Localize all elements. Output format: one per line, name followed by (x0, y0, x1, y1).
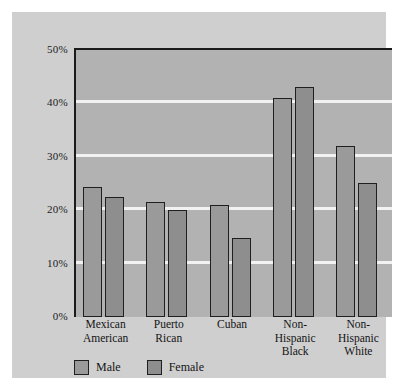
x-tick-label-line: Black (264, 345, 327, 359)
bar-female-3 (295, 87, 314, 317)
x-tick-label-line: American (74, 332, 137, 346)
bar-male-4 (336, 146, 355, 317)
bar-female-4 (358, 183, 377, 317)
bar-male-0 (83, 187, 102, 317)
y-tick-label: 40% (24, 96, 68, 108)
bar-female-1 (168, 210, 187, 317)
y-tick-label: 0% (24, 310, 68, 322)
plot-area (74, 48, 392, 317)
bar-male-1 (146, 202, 165, 317)
bar-male-2 (210, 205, 229, 317)
y-tick-label: 50% (24, 43, 68, 55)
bar-male-3 (273, 98, 292, 317)
x-tick-label: MexicanAmerican (74, 318, 137, 345)
x-tick-label: Non-HispanicWhite (327, 318, 390, 359)
y-tick-label: 30% (24, 150, 68, 162)
legend-swatch-icon (147, 360, 162, 375)
legend-item-male[interactable]: Male (74, 360, 121, 375)
x-tick-label-line: Non- (327, 318, 390, 332)
x-tick-label-line: Cuban (200, 318, 263, 332)
legend-item-female[interactable]: Female (147, 360, 204, 375)
x-tick-label-line: Hispanic (327, 332, 390, 346)
chart-figure: 0%10%20%30%40%50% MexicanAmericanPuertoR… (0, 0, 397, 391)
x-tick-label-line: Non- (264, 318, 327, 332)
x-tick-label: Non-HispanicBlack (264, 318, 327, 359)
x-tick-label: PuertoRican (137, 318, 200, 345)
bar-female-0 (105, 197, 124, 317)
legend-swatch-icon (74, 360, 89, 375)
legend-label: Male (96, 360, 121, 375)
bar-female-2 (232, 238, 251, 317)
x-tick-label-line: Puerto (137, 318, 200, 332)
y-tick-label: 20% (24, 203, 68, 215)
y-tick-label: 10% (24, 257, 68, 269)
x-tick-label: Cuban (200, 318, 263, 332)
x-tick-label-line: Mexican (74, 318, 137, 332)
legend-label: Female (169, 360, 204, 375)
y-axis: 0%10%20%30%40%50% (20, 48, 68, 315)
gridline-40 (76, 100, 392, 103)
chart-legend: MaleFemale (74, 360, 224, 375)
x-tick-label-line: Hispanic (264, 332, 327, 346)
chart-card: 0%10%20%30%40%50% MexicanAmericanPuertoR… (12, 12, 386, 378)
x-tick-label-line: White (327, 345, 390, 359)
x-tick-label-line: Rican (137, 332, 200, 346)
